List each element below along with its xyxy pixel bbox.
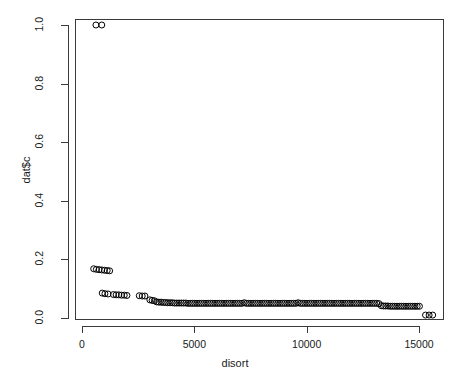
x-tick-label: 15000	[404, 339, 433, 350]
x-axis-line	[82, 326, 420, 327]
y-tick-mark	[61, 259, 68, 260]
y-axis-line	[68, 25, 69, 319]
x-tick-mark	[82, 326, 83, 333]
y-tick-label: 0.8	[34, 70, 45, 96]
y-tick-mark	[61, 142, 68, 143]
y-tick-mark	[61, 25, 68, 26]
y-tick-label: 0.6	[34, 128, 45, 154]
x-tick-label: 5000	[183, 339, 206, 350]
x-tick-mark	[307, 326, 308, 333]
scatter-plot-figure: dat$c disort 0.00.20.40.60.81.0050001000…	[0, 0, 470, 389]
x-axis-title: disort	[0, 358, 470, 369]
y-axis-title: dat$c	[21, 156, 32, 183]
y-tick-label: 0.2	[34, 246, 45, 272]
x-tick-mark	[194, 326, 195, 333]
plot-frame	[75, 19, 444, 320]
y-tick-label: 1.0	[34, 11, 45, 37]
y-tick-mark	[61, 84, 68, 85]
y-tick-mark	[61, 318, 68, 319]
y-tick-mark	[61, 201, 68, 202]
y-tick-label: 0.0	[34, 304, 45, 330]
y-tick-label: 0.4	[34, 187, 45, 213]
x-tick-label: 10000	[292, 339, 321, 350]
x-tick-mark	[419, 326, 420, 333]
x-tick-label: 0	[79, 339, 85, 350]
